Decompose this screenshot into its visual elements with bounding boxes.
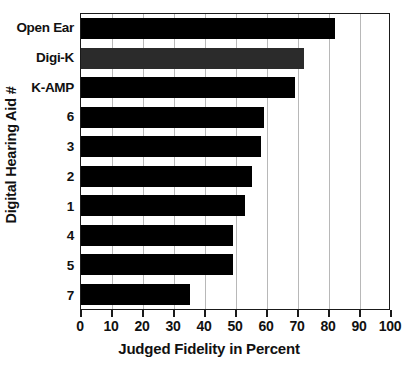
- x-tick-mark: [173, 310, 175, 317]
- bar: [81, 77, 295, 98]
- x-axis-tick-labels: 0102030405060708090100: [56, 318, 414, 338]
- y-tick-label: 7: [22, 280, 78, 310]
- x-tick-mark: [111, 310, 113, 317]
- y-tick-label: K-AMP: [22, 72, 78, 102]
- y-tick-label: 1: [22, 191, 78, 221]
- x-tick-label: 80: [321, 318, 336, 334]
- y-tick-label: 2: [22, 162, 78, 192]
- bar-row: [81, 162, 389, 192]
- y-tick-label: 5: [22, 251, 78, 281]
- bar: [81, 284, 190, 305]
- x-tick-mark: [235, 310, 237, 317]
- y-tick-label: Open Ear: [22, 13, 78, 43]
- y-tick-label: 3: [22, 132, 78, 162]
- bar-row: [81, 44, 389, 74]
- x-tick-mark: [297, 310, 299, 317]
- x-tick-label: 50: [228, 318, 243, 334]
- x-tick-label: 0: [76, 318, 84, 334]
- bar-row: [81, 221, 389, 251]
- y-tick-label: Digi-K: [22, 43, 78, 73]
- x-tick-mark: [390, 310, 392, 317]
- x-tick-label: 30: [166, 318, 181, 334]
- y-axis-title: Digital Hearing Aid #: [0, 0, 22, 310]
- x-tick-mark: [80, 310, 82, 317]
- bar-row: [81, 191, 389, 221]
- y-tick-label: 6: [22, 102, 78, 132]
- plot-area: [80, 13, 390, 310]
- bar: [81, 48, 304, 69]
- bar-row: [81, 280, 389, 310]
- x-tick-label: 20: [135, 318, 150, 334]
- bar: [81, 107, 264, 128]
- x-tick-mark: [359, 310, 361, 317]
- bar-row: [81, 132, 389, 162]
- bar: [81, 166, 252, 187]
- x-axis-tick-marks: [80, 310, 390, 318]
- x-tick-label: 90: [352, 318, 367, 334]
- x-tick-label: 40: [197, 318, 212, 334]
- x-tick-mark: [328, 310, 330, 317]
- x-tick-mark: [266, 310, 268, 317]
- bar: [81, 18, 335, 39]
- y-axis-title-text: Digital Hearing Aid #: [3, 86, 19, 223]
- bar: [81, 225, 233, 246]
- y-tick-label: 4: [22, 221, 78, 251]
- x-tick-mark: [142, 310, 144, 317]
- bar-series: [81, 14, 389, 309]
- x-tick-label: 60: [259, 318, 274, 334]
- x-tick-mark: [204, 310, 206, 317]
- x-tick-label: 100: [379, 318, 401, 334]
- bar: [81, 254, 233, 275]
- bar-row: [81, 73, 389, 103]
- bar-chart-figure: Digital Hearing Aid # Open Ear Digi-K K-…: [0, 0, 418, 369]
- x-tick-label: 70: [290, 318, 305, 334]
- bar: [81, 136, 261, 157]
- y-axis-tick-labels: Open Ear Digi-K K-AMP 6 3 2 1 4 5 7: [22, 13, 78, 310]
- bar-row: [81, 250, 389, 280]
- bar-row: [81, 103, 389, 133]
- bar: [81, 195, 245, 216]
- bar-row: [81, 14, 389, 44]
- x-tick-label: 10: [104, 318, 119, 334]
- x-axis-title: Judged Fidelity in Percent: [0, 340, 418, 357]
